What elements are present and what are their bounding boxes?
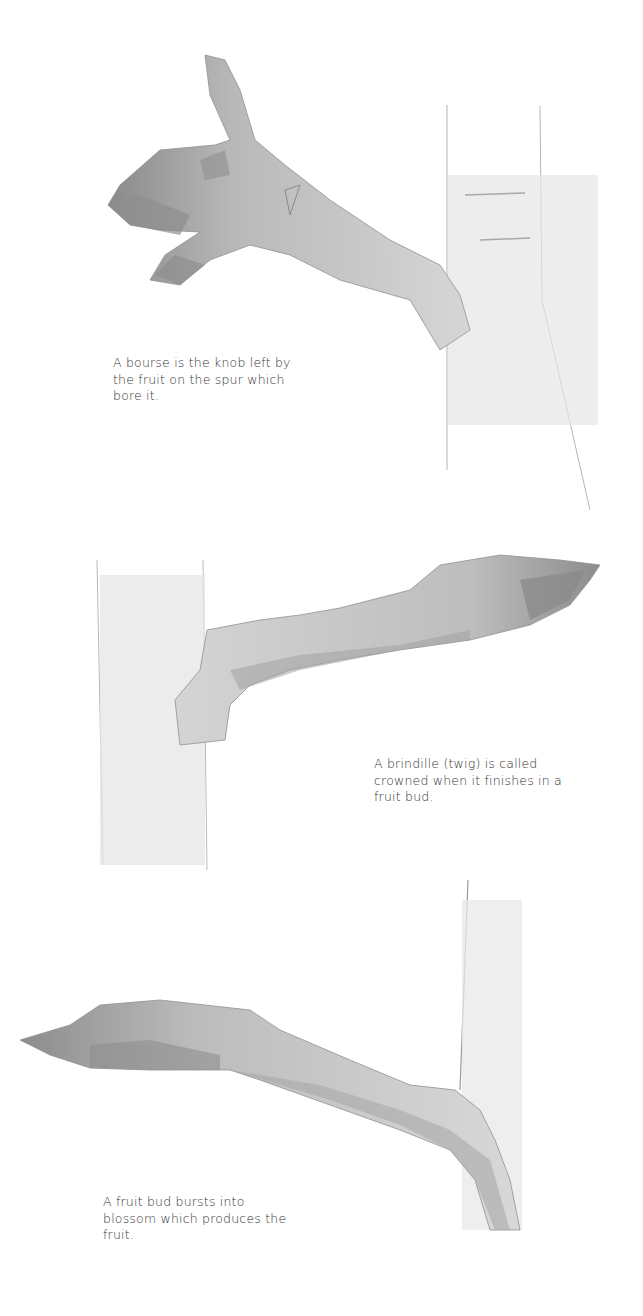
bourse-illustration [0, 0, 643, 520]
figure-fruit-bud: A fruit bud bursts into blossom which pr… [0, 880, 643, 1316]
caption-bourse: A bourse is the knob left by the fruit o… [113, 355, 291, 405]
caption-fruit-bud: A fruit bud bursts into blossom which pr… [103, 1194, 286, 1244]
figure-bourse: A bourse is the knob left by the fruit o… [0, 0, 643, 520]
fruit-bud-illustration [0, 880, 643, 1316]
brindille-illustration [0, 520, 643, 880]
caption-brindille: A brindille (twig) is called crowned whe… [374, 756, 562, 806]
figure-brindille: A brindille (twig) is called crowned whe… [0, 520, 643, 880]
